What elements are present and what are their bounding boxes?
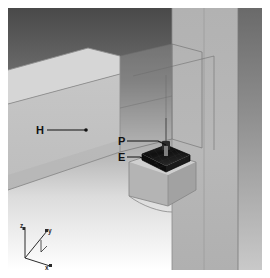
column-side-face bbox=[238, 8, 262, 270]
label-embed: E bbox=[118, 151, 125, 163]
stud-collar bbox=[164, 146, 168, 156]
axis-label-y: y bbox=[48, 227, 52, 235]
beam-leader-dot bbox=[84, 128, 88, 132]
label-plate: P bbox=[118, 135, 125, 147]
label-beam: H bbox=[36, 124, 44, 136]
column-front-face bbox=[172, 8, 238, 270]
model-viewport: H P E z y x bbox=[0, 0, 270, 278]
axis-label-x: x bbox=[45, 264, 49, 271]
model-canvas: H P E z y x bbox=[0, 0, 270, 278]
axis-x-marker bbox=[49, 264, 52, 267]
